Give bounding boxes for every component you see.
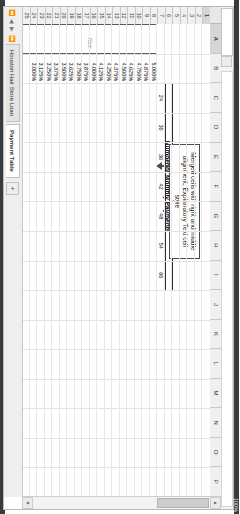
- row-header-16[interactable]: 16: [90, 7, 98, 24]
- sheet-nav-buttons: ⏪ ◀ ▶ ⏩: [10, 9, 17, 42]
- prev-sheet-icon[interactable]: ◀: [10, 19, 17, 24]
- interest-rate-cell[interactable]: 3.875%: [83, 54, 89, 82]
- column-header-e[interactable]: E: [210, 143, 221, 173]
- grid-hline: [141, 24, 142, 497]
- sheet-tab-bar: ⏪ ◀ ▶ ⏩ Houston Hair Store Loan Payment …: [4, 7, 23, 497]
- grid-hline: [81, 24, 82, 497]
- first-sheet-icon[interactable]: ⏪: [10, 9, 17, 16]
- row-header-24[interactable]: 24: [30, 7, 38, 24]
- sheet-tab-payment-table[interactable]: Payment Table: [6, 124, 20, 178]
- select-all-corner[interactable]: [210, 7, 221, 24]
- vertical-scrollbar[interactable]: ▲ ▼: [22, 496, 221, 509]
- interest-rate-cell[interactable]: 4.000%: [90, 54, 96, 82]
- column-header-i[interactable]: I: [210, 261, 221, 291]
- payment-count-header-30: 30: [157, 113, 163, 143]
- row-header-7[interactable]: 7: [157, 7, 165, 24]
- row-header-14[interactable]: 14: [105, 7, 113, 24]
- grid-hline: [89, 24, 90, 497]
- interest-rate-cell[interactable]: 4.250%: [105, 54, 111, 82]
- subtitle-underline: [165, 83, 166, 290]
- row-header-23[interactable]: 23: [37, 7, 45, 24]
- row-header-18[interactable]: 18: [75, 7, 83, 24]
- interest-rate-cell[interactable]: 4.375%: [113, 54, 119, 82]
- column-header-m[interactable]: M: [210, 379, 221, 409]
- row-header-21[interactable]: 21: [52, 7, 60, 24]
- row-header-10[interactable]: 10: [135, 7, 143, 24]
- last-sheet-icon[interactable]: ⏩: [10, 35, 17, 42]
- payment-count-header-36: 36: [157, 142, 163, 172]
- row-header-12[interactable]: 12: [120, 7, 128, 24]
- column-header-n[interactable]: N: [210, 408, 221, 438]
- worksheet-grid[interactable]: Payment Options Number of Monthly Paymen…: [22, 24, 210, 497]
- column-header-g[interactable]: G: [210, 202, 221, 232]
- row-header-20[interactable]: 20: [60, 7, 68, 24]
- insert-function-icon[interactable]: [222, 56, 233, 67]
- row-header-6[interactable]: 6: [165, 7, 173, 24]
- column-header-a[interactable]: A: [210, 24, 221, 54]
- column-header-c[interactable]: C: [210, 83, 221, 113]
- row-header-11[interactable]: 11: [127, 7, 135, 24]
- interest-rate-cell[interactable]: 4.500%: [120, 54, 126, 82]
- row-header-13[interactable]: 13: [112, 7, 120, 24]
- interest-rate-cell[interactable]: 4.750%: [135, 54, 141, 82]
- scrollbar-thumb[interactable]: [157, 498, 209, 508]
- formula-bar: [220, 7, 233, 509]
- sheet-tab-houston-hair-store-loan[interactable]: Houston Hair Store Loan: [6, 44, 20, 122]
- row-header-25[interactable]: 25: [22, 7, 30, 24]
- interest-rate-cell[interactable]: 5.000%: [150, 54, 156, 82]
- column-header-p[interactable]: P: [210, 467, 221, 497]
- column-header-d[interactable]: D: [210, 113, 221, 143]
- row-header-2[interactable]: 2: [195, 7, 203, 24]
- column-header-l[interactable]: L: [210, 349, 221, 379]
- interest-rate-cell[interactable]: 4.625%: [128, 54, 134, 82]
- scroll-up-icon[interactable]: ▲: [210, 497, 221, 509]
- column-header-row: ABCDEFGHIJKLMNOP: [209, 7, 221, 497]
- interest-rate-cell[interactable]: 3.375%: [53, 54, 59, 82]
- column-header-j[interactable]: J: [210, 290, 221, 320]
- column-header-f[interactable]: F: [210, 172, 221, 202]
- row-header-8[interactable]: 8: [150, 7, 158, 24]
- interest-rate-cell[interactable]: 3.500%: [60, 54, 66, 82]
- row-header-9[interactable]: 9: [142, 7, 150, 24]
- grid-hline: [111, 24, 112, 497]
- column-header-o[interactable]: O: [210, 438, 221, 468]
- zoom-level-label[interactable]: 100%: [234, 498, 240, 512]
- top-dark-edge: [234, 0, 239, 514]
- interest-rate-cell[interactable]: 3.125%: [38, 54, 44, 82]
- payment-count-header-60: 60: [157, 261, 163, 291]
- row-header-17[interactable]: 17: [82, 7, 90, 24]
- payment-count-header-48: 48: [157, 201, 163, 231]
- interest-rate-cell[interactable]: 4.875%: [143, 54, 149, 82]
- row-header-4[interactable]: 4: [180, 7, 188, 24]
- name-box[interactable]: [221, 8, 233, 56]
- row-header-22[interactable]: 22: [45, 7, 53, 24]
- formula-input[interactable]: [221, 71, 233, 507]
- row-header-3[interactable]: 3: [187, 7, 195, 24]
- column-header-b[interactable]: B: [210, 54, 221, 84]
- grid-hline: [179, 24, 180, 497]
- column-header-h[interactable]: H: [210, 231, 221, 261]
- interest-rate-cell[interactable]: 3.250%: [45, 54, 51, 82]
- grid-hline: [36, 24, 37, 497]
- row-header-19[interactable]: 19: [67, 7, 75, 24]
- grid-hline: [164, 24, 165, 497]
- workbook-frame: ABCDEFGHIJKLMNOP 12345678910111213141516…: [3, 6, 234, 510]
- grid-hline: [44, 24, 45, 497]
- interest-rate-cell[interactable]: 3.000%: [30, 54, 36, 82]
- grid-hline: [134, 24, 135, 497]
- interest-rate-cell[interactable]: 4.125%: [98, 54, 104, 82]
- row-header-15[interactable]: 15: [97, 7, 105, 24]
- payment-count-header-42: 42: [157, 172, 163, 202]
- grid-hline: [29, 24, 30, 497]
- grid-hline: [51, 24, 52, 497]
- scroll-down-icon[interactable]: ▼: [22, 497, 33, 509]
- row-header-1[interactable]: 1: [202, 7, 210, 24]
- add-sheet-icon[interactable]: +: [7, 182, 20, 195]
- grid-hline: [119, 24, 120, 497]
- column-header-k[interactable]: K: [210, 320, 221, 350]
- row-header-5[interactable]: 5: [172, 7, 180, 24]
- interest-rate-cell[interactable]: 3.625%: [68, 54, 74, 82]
- grid-hline: [186, 24, 187, 497]
- interest-rate-cell[interactable]: 3.750%: [75, 54, 81, 82]
- next-sheet-icon[interactable]: ▶: [10, 27, 17, 32]
